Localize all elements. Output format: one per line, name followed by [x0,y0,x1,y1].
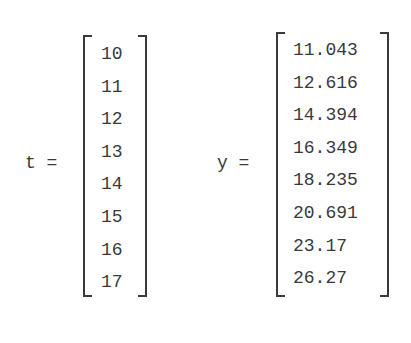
t-value: 11 [101,71,147,104]
left-bracket [276,32,285,297]
y-value: 18.235 [293,164,389,197]
y-value: 23.17 [293,230,389,263]
y-value: 20.691 [293,197,389,230]
t-value: 10 [101,38,147,71]
y-value: 11.043 [293,34,389,67]
y-value: 26.27 [293,262,389,295]
t-value: 15 [101,201,147,234]
t-value: 13 [101,136,147,169]
y-value: 16.349 [293,132,389,165]
t-value: 12 [101,103,147,136]
y-value: 14.394 [293,99,389,132]
t-value: 14 [101,168,147,201]
y-value: 12.616 [293,67,389,100]
y-label: y = [217,153,249,173]
t-value: 17 [101,266,147,299]
t-value: 16 [101,234,147,267]
t-label: t = [25,153,57,173]
left-bracket [83,35,92,297]
y-vector: 11.043 12.616 14.394 16.349 18.235 20.69… [276,32,389,297]
t-vector: 10 11 12 13 14 15 16 17 [83,35,147,297]
